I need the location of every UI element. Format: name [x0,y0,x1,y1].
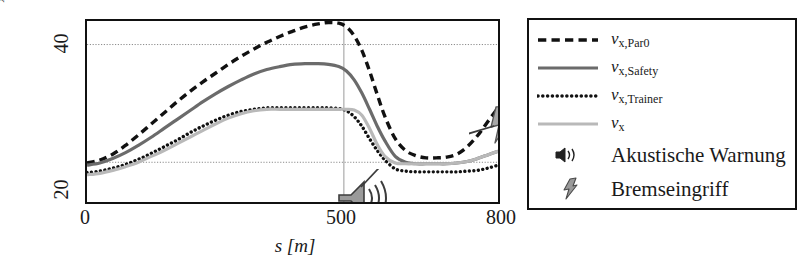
y-tick-label-40: 40 [50,27,73,61]
legend: vx,Par0vx,Safetyvx,TrainervxAkustische W… [527,18,797,210]
y-tick-label-20: 20 [50,173,73,207]
y-axis-label-symbol: v [0,3,3,12]
x-tick-label-0: 0 [60,206,110,229]
legend-label-subscript: x,Safety [619,64,659,78]
x-axis-label: s [m] [205,235,385,257]
legend-label-symbol: v [611,29,619,48]
legend-swatch [537,88,599,104]
legend-label: vx,Safety [611,57,658,79]
speaker-icon [555,146,581,164]
y-axis-label-subscript: x [0,0,7,3]
legend-label-symbol: v [611,113,619,132]
legend-label-subscript: x,Trainer [619,92,663,106]
legend-item-speaker[interactable]: Akustische Warnung [529,138,795,172]
legend-label: vx [611,113,625,135]
legend-swatch [537,60,599,76]
legend-rows: vx,Par0vx,Safetyvx,TrainervxAkustische W… [529,26,795,206]
legend-label-subscript: x [619,120,625,134]
speaker-icon [537,146,599,164]
plot-area [85,19,500,204]
legend-label: vx,Par0 [611,29,650,51]
legend-swatch [537,116,599,132]
legend-item-x-trainer[interactable]: vx,Trainer [529,82,795,110]
legend-label: Bremseingriff [611,177,728,202]
legend-item-lightning-bolt[interactable]: Bremseingriff [529,172,795,206]
legend-swatch [537,32,599,48]
chart-root: vx [m/s] 40 20 0 500 800 s [m] [0,0,810,278]
plot-inner [87,21,498,202]
legend-item-x[interactable]: vx [529,110,795,138]
y-axis-label: vx [m/s] [0,0,8,60]
legend-label-symbol: v [611,57,619,76]
series-line-v_x-safety [87,64,498,166]
annotation-arrow-speaker [361,169,395,187]
lightning-bolt-icon [537,177,599,201]
x-tick-label-500: 500 [316,206,366,229]
annotation-arrow-bolt [469,126,494,144]
lightning-bolt-icon [491,105,498,143]
legend-item-x-safety[interactable]: vx,Safety [529,54,795,82]
legend-label: Akustische Warnung [611,143,786,168]
legend-label-symbol: v [611,85,619,104]
legend-item-x-par0[interactable]: vx,Par0 [529,26,795,54]
series-line-v_x-par0 [87,22,498,163]
bremseingriff-annotation [469,103,498,163]
lightning-bolt-icon [557,177,579,201]
speaker-icon [339,181,386,202]
legend-label: vx,Trainer [611,85,662,107]
x-tick-label-800: 800 [476,206,526,229]
legend-label-subscript: x,Par0 [619,36,650,50]
series-line-v_x [87,109,498,175]
akustische-warnung-annotation [337,169,442,202]
